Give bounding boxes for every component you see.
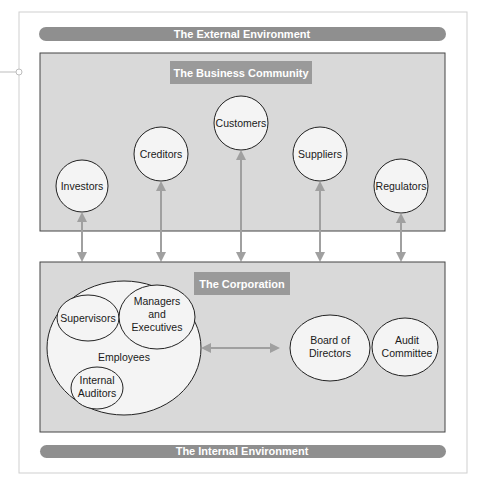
supervisors-label: Supervisors (60, 312, 115, 324)
audit-committee-label-line1: Audit (395, 334, 419, 346)
frame-connector-dot (16, 69, 22, 75)
managers-label-line1: Managers (134, 295, 181, 307)
creditors-label: Creditors (140, 148, 183, 160)
internal-auditors-label-line1: Internal (79, 374, 114, 386)
board-of-directors-ellipse: Board of Directors (290, 315, 370, 381)
investors-label: Investors (61, 180, 104, 192)
corporation-title: The Corporation (199, 278, 285, 290)
internal-environment-label: The Internal Environment (176, 445, 309, 457)
audit-committee-label-line2: Committee (382, 347, 433, 359)
audit-committee-ellipse: Audit Committee (372, 318, 438, 376)
managers-label-line3: Executives (132, 321, 183, 333)
board-label-line1: Board of (310, 334, 350, 346)
customers-label: Customers (216, 117, 267, 129)
stakeholder-customers: Customers (214, 96, 268, 150)
external-environment-label: The External Environment (174, 28, 311, 40)
supervisors-ellipse: Supervisors (57, 295, 119, 341)
internal-auditors-label-line2: Auditors (78, 387, 117, 399)
stakeholder-investors: Investors (56, 160, 108, 212)
stakeholder-diagram: The External Environment The Business Co… (0, 0, 479, 488)
stakeholder-regulators: Regulators (374, 159, 428, 213)
suppliers-label: Suppliers (298, 148, 342, 160)
employees-label: Employees (98, 351, 150, 363)
board-label-line2: Directors (309, 347, 351, 359)
stakeholder-suppliers: Suppliers (293, 127, 347, 181)
external-environment-band: The External Environment (39, 27, 446, 41)
stakeholder-creditors: Creditors (134, 127, 188, 181)
internal-environment-band: The Internal Environment (40, 445, 446, 458)
managers-label-line2: and (148, 308, 166, 320)
regulators-label: Regulators (376, 180, 427, 192)
managers-ellipse: Managers and Executives (119, 285, 195, 349)
internal-auditors-ellipse: Internal Auditors (71, 367, 123, 409)
business-community-title: The Business Community (173, 67, 309, 79)
